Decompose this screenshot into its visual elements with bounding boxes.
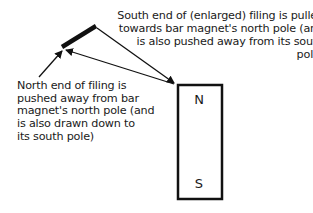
iron-filing: [62, 26, 96, 47]
south-pole-label: S: [177, 176, 221, 191]
north-end-annotation: North end of filing is pushed away from …: [17, 80, 154, 144]
north-pole-label: N: [177, 92, 221, 107]
south-end-annotation: South end of (enlarged) filing is pulled…: [112, 9, 313, 61]
arrow-label-to-north-end: [39, 51, 62, 77]
